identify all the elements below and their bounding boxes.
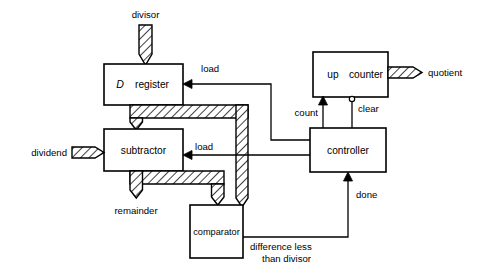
block-comparator: comparator bbox=[190, 205, 243, 258]
quotient-label: quotient bbox=[428, 67, 462, 78]
block-controller: controller bbox=[310, 128, 386, 172]
subtractor-label: subtractor bbox=[121, 145, 167, 156]
diagram-canvas: divisor D register subtractor dividend bbox=[0, 0, 486, 278]
divisor-label: divisor bbox=[132, 9, 161, 20]
remainder-label: remainder bbox=[114, 205, 158, 216]
count-signal-wire bbox=[319, 96, 328, 128]
divisor-data-bus bbox=[130, 105, 248, 130]
dividend-label: dividend bbox=[31, 147, 67, 158]
up-counter-label-counter: counter bbox=[349, 69, 384, 80]
load-register-label: load bbox=[201, 63, 219, 74]
divider-block-diagram: divisor D register subtractor dividend bbox=[0, 0, 486, 278]
done-signal-wire bbox=[243, 172, 353, 237]
clear-label: clear bbox=[358, 103, 380, 114]
dividend-input-bus bbox=[72, 147, 104, 158]
block-up-counter: up counter bbox=[313, 52, 388, 97]
d-register-label-register: register bbox=[135, 79, 170, 90]
count-label: count bbox=[295, 107, 319, 118]
controller-label: controller bbox=[327, 145, 370, 156]
difference-annotation-line2: than divisor bbox=[262, 253, 312, 264]
difference-annotation-line1: difference less bbox=[250, 241, 312, 252]
divisor-input-bus bbox=[139, 25, 152, 65]
load-subtractor-label: load bbox=[195, 141, 213, 152]
done-label: done bbox=[356, 189, 377, 200]
quotient-output-bus bbox=[388, 67, 422, 78]
comparator-label: comparator bbox=[193, 227, 239, 237]
subtractor-result-bus bbox=[130, 171, 224, 205]
block-subtractor: subtractor bbox=[104, 129, 183, 171]
block-d-register: D register bbox=[104, 64, 183, 105]
d-register-label-d: D bbox=[116, 78, 124, 90]
clear-signal-wire bbox=[349, 96, 354, 128]
divisor-vertical-bus bbox=[236, 105, 248, 207]
up-counter-label-up: up bbox=[327, 69, 339, 80]
